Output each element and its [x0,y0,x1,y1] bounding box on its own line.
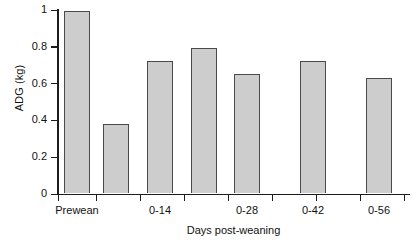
bar-chart: ADG (kg) 1 0.8 0.6 0.4 0.2 0 Prewean 0-1… [0,0,413,245]
y-tick-label-0.4: 0.4 [7,114,47,125]
x-tick-mark-8 [404,195,405,201]
y-tick-mark-1 [51,10,58,11]
x-tick-mark-2 [140,195,141,201]
x-tick-mark-0 [58,195,59,201]
y-tick-label-0.8: 0.8 [7,41,47,52]
y-tick-label-0: 0 [7,188,47,199]
x-tick-mark-1 [96,195,97,201]
x-tick-label-0-56: 0-56 [339,204,413,216]
bar-4 [191,48,217,193]
y-tick-mark-0.6 [51,83,58,84]
bar-2 [103,124,129,194]
bar-0-56 [366,78,392,194]
x-tick-mark-5 [272,195,273,201]
y-tick-mark-0.8 [51,46,58,47]
bar-0-14 [147,61,173,193]
bar-0-42 [300,61,326,193]
y-tick-mark-0.2 [51,157,58,158]
y-tick-label-0.6: 0.6 [7,78,47,89]
y-tick-mark-0 [51,194,58,195]
x-tick-mark-6 [316,195,317,201]
y-tick-label-0.2: 0.2 [7,151,47,162]
x-tick-mark-4 [228,195,229,201]
x-tick-label-0-14: 0-14 [120,204,200,216]
bar-prewean [64,11,90,193]
bar-0-28 [234,74,260,194]
x-axis-line [57,194,410,196]
y-tick-label-1: 1 [7,4,47,15]
x-tick-mark-3 [184,195,185,201]
y-axis-line [57,9,59,195]
x-tick-label-prewean: Prewean [37,204,117,216]
y-tick-mark-0.4 [51,120,58,121]
x-axis-title: Days post-weaning [58,224,409,236]
x-tick-mark-7 [360,195,361,201]
